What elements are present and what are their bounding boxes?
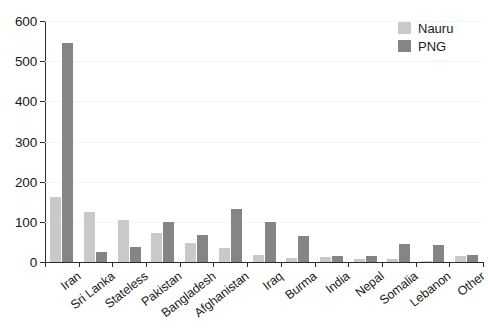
x-axis-label-india: India xyxy=(323,269,353,296)
legend-label-png: PNG xyxy=(418,40,446,53)
bar-png-afghanistan xyxy=(231,209,242,262)
bar-png-pakistan xyxy=(163,222,174,262)
bar-png-bangladesh xyxy=(197,235,208,262)
bar-group xyxy=(455,21,478,262)
bar-group xyxy=(253,21,276,262)
bar-nauru-somalia xyxy=(387,259,398,262)
y-axis-tick xyxy=(40,61,45,62)
chart-legend: Nauru PNG xyxy=(398,20,453,56)
bar-group xyxy=(421,21,444,262)
bar-png-other xyxy=(467,255,478,262)
x-axis-tick xyxy=(315,262,316,267)
bar-nauru-lebanon xyxy=(421,261,432,262)
y-axis-label: 200 xyxy=(15,174,37,189)
x-axis-label-burma: Burma xyxy=(282,269,319,302)
x-axis-tick xyxy=(281,262,282,267)
y-axis-tick xyxy=(40,21,45,22)
bar-group xyxy=(286,21,309,262)
bar-nauru-pakistan xyxy=(151,233,162,262)
bar-group xyxy=(151,21,174,262)
y-axis-label: 500 xyxy=(15,54,37,69)
plot-area: 0100200300400500600 xyxy=(45,21,483,262)
y-axis-tick xyxy=(40,182,45,183)
x-axis-tick xyxy=(483,262,484,267)
legend-swatch-nauru xyxy=(398,22,411,34)
x-axis-tick xyxy=(146,262,147,267)
bar-chart: 0100200300400500600 Nauru PNG IranSri La… xyxy=(0,0,488,329)
legend-swatch-png xyxy=(398,40,411,52)
bar-nauru-bangladesh xyxy=(185,243,196,262)
x-axis-tick xyxy=(213,262,214,267)
y-axis-label: 600 xyxy=(15,14,37,29)
bar-group xyxy=(320,21,343,262)
x-axis-tick xyxy=(79,262,80,267)
legend-item-png: PNG xyxy=(398,38,453,54)
bar-png-iraq xyxy=(265,222,276,262)
x-axis-label-iran: Iran xyxy=(58,269,83,293)
x-axis-tick xyxy=(45,262,46,267)
x-axis-tick xyxy=(180,262,181,267)
legend-item-nauru: Nauru xyxy=(398,20,453,36)
bar-png-sri-lanka xyxy=(96,252,107,262)
y-axis-label: 400 xyxy=(15,94,37,109)
bar-group xyxy=(84,21,107,262)
bar-png-somalia xyxy=(399,244,410,262)
x-axis-tick xyxy=(247,262,248,267)
bar-group xyxy=(387,21,410,262)
bar-group xyxy=(219,21,242,262)
bar-png-lebanon xyxy=(433,245,444,262)
x-axis-tick xyxy=(416,262,417,267)
bar-nauru-india xyxy=(320,257,331,262)
bar-nauru-burma xyxy=(286,258,297,262)
x-axis-line xyxy=(45,262,484,263)
x-axis-tick xyxy=(449,262,450,267)
x-axis-tick xyxy=(112,262,113,267)
bar-nauru-afghanistan xyxy=(219,248,230,262)
x-axis-label-other: Other xyxy=(455,269,488,299)
bar-group xyxy=(354,21,377,262)
bar-group xyxy=(118,21,141,262)
x-axis-tick xyxy=(348,262,349,267)
legend-label-nauru: Nauru xyxy=(418,22,453,35)
bar-png-stateless xyxy=(130,247,141,262)
bar-nauru-sri-lanka xyxy=(84,212,95,262)
y-axis-tick xyxy=(40,142,45,143)
bar-png-india xyxy=(332,256,343,262)
bar-png-iran xyxy=(62,43,73,262)
bar-nauru-nepal xyxy=(354,259,365,262)
bar-group xyxy=(50,21,73,262)
bar-nauru-iran xyxy=(50,197,61,262)
x-axis-tick xyxy=(382,262,383,267)
y-axis-tick xyxy=(40,222,45,223)
y-axis-label: 0 xyxy=(30,255,37,270)
bar-group xyxy=(185,21,208,262)
x-axis-label-iraq: Iraq xyxy=(260,269,285,293)
bar-png-nepal xyxy=(366,256,377,262)
bar-nauru-stateless xyxy=(118,220,129,262)
y-axis-tick xyxy=(40,101,45,102)
bar-nauru-iraq xyxy=(253,255,264,262)
y-axis-label: 300 xyxy=(15,134,37,149)
y-axis-label: 100 xyxy=(15,214,37,229)
bar-nauru-other xyxy=(455,256,466,262)
bar-png-burma xyxy=(298,236,309,262)
